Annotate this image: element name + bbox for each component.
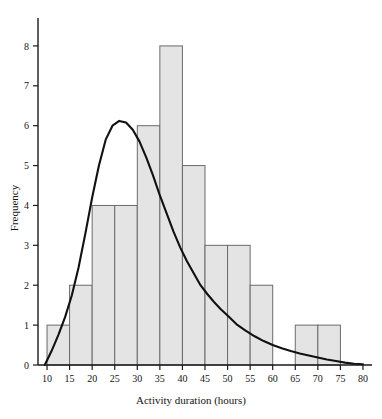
x-tick-label: 10 [42, 373, 52, 384]
y-tick-label: 7 [24, 80, 29, 91]
y-tick-label: 0 [24, 360, 29, 371]
y-tick-label: 1 [24, 320, 29, 331]
chart-canvas: 012345678 101520253035404550556065707580… [0, 0, 382, 419]
y-tick-label: 6 [24, 120, 29, 131]
histogram-bar [47, 325, 70, 365]
histogram-bar [92, 205, 115, 365]
x-tick-label: 70 [313, 373, 323, 384]
histogram-bar [182, 166, 205, 365]
y-axis-title: Frequency [8, 184, 20, 231]
y-tick-label: 2 [24, 280, 29, 291]
x-tick-label: 60 [268, 373, 278, 384]
y-tick-label: 5 [24, 160, 29, 171]
y-tick-label: 4 [24, 200, 29, 211]
y-tick-label: 8 [24, 41, 29, 52]
x-tick-label: 50 [223, 373, 233, 384]
histogram-bar [295, 325, 318, 365]
x-tick-label: 35 [155, 373, 165, 384]
x-tick-label: 75 [335, 373, 345, 384]
x-tick-label: 65 [290, 373, 300, 384]
x-tick-label: 40 [177, 373, 187, 384]
histogram-bar [115, 205, 138, 365]
y-axis-ticks: 012345678 [24, 41, 38, 371]
x-axis-title: Activity duration (hours) [136, 394, 246, 407]
x-tick-label: 45 [200, 373, 210, 384]
y-tick-label: 3 [24, 240, 29, 251]
x-tick-label: 25 [110, 373, 120, 384]
x-tick-label: 15 [65, 373, 75, 384]
x-axis-ticks: 101520253035404550556065707580 [42, 365, 368, 384]
histogram-bar [228, 245, 251, 365]
histogram-bar [250, 285, 273, 365]
histogram-chart: 012345678 101520253035404550556065707580… [0, 0, 382, 419]
x-tick-label: 55 [245, 373, 255, 384]
x-tick-label: 80 [358, 373, 368, 384]
x-tick-label: 30 [132, 373, 142, 384]
x-tick-label: 20 [87, 373, 97, 384]
histogram-bar [70, 285, 93, 365]
